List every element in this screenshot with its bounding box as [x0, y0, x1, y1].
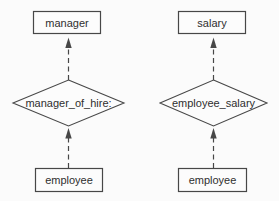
arrowhead-up-diamond-left — [65, 128, 71, 139]
relationship-label-manager-of-hire: manager_of_hire: — [25, 97, 111, 109]
arrowhead-up-manager — [65, 38, 71, 49]
entity-label-salary: salary — [197, 17, 227, 29]
arrowhead-up-diamond-right — [210, 128, 216, 139]
entity-label-employee-right: employee — [189, 174, 237, 186]
relationship-group-manager-of-hire: manager manager_of_hire: employee — [13, 12, 124, 192]
er-diagram-canvas: manager manager_of_hire: employee salary… — [0, 0, 279, 201]
relationship-label-employee-salary: employee_salary — [172, 97, 256, 109]
relationship-group-employee-salary: salary employee_salary employee — [160, 12, 267, 192]
arrowhead-up-salary — [210, 38, 216, 49]
er-diagram: manager manager_of_hire: employee salary… — [0, 0, 279, 201]
entity-label-manager: manager — [45, 17, 89, 29]
entity-label-employee-left: employee — [45, 174, 93, 186]
